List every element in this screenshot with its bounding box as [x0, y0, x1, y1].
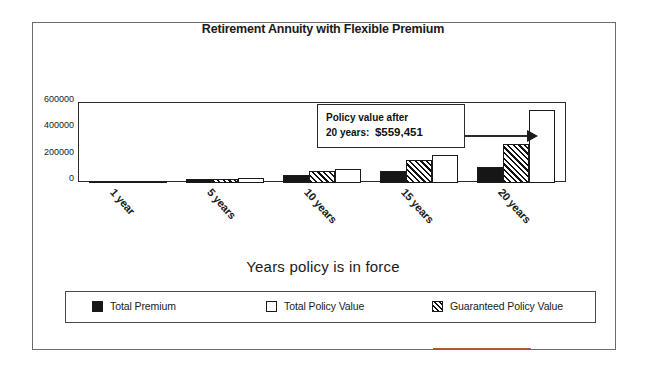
bar-guaranteed-policy-value-10-years	[309, 171, 335, 182]
bar-group-1-year	[79, 105, 176, 183]
bar-total-premium-15-years	[380, 171, 406, 183]
bar-total-premium-5-years	[186, 179, 212, 183]
x-axis-tick-15-years: 15 years	[399, 186, 436, 226]
callout-arrow-head-icon	[527, 130, 538, 142]
bar-total-policy-value-1-year	[141, 181, 167, 183]
bar-total-premium-20-years	[477, 167, 503, 183]
x-axis-tick-20-years: 20 years	[496, 186, 533, 226]
x-axis-tick-10-years: 10 years	[302, 186, 339, 226]
y-axis-tick-0: 0	[69, 173, 74, 183]
legend-item-total-premium: Total Premium	[92, 300, 176, 312]
bar-group-20-years	[467, 105, 564, 183]
legend-label-guaranteed-policy-value: Guaranteed Policy Value	[450, 300, 563, 312]
legend-item-total-policy-value: Total Policy Value	[266, 300, 364, 312]
x-axis-tick-1-year: 1 year	[108, 186, 137, 217]
legend-swatch-guaranteed-policy-value-icon	[432, 301, 443, 312]
callout-label: 20 years:	[326, 127, 369, 138]
legend-label-total-policy-value: Total Policy Value	[284, 300, 364, 312]
y-axis-labels: 600000 400000 200000 0	[16, 94, 74, 190]
bar-guaranteed-policy-value-1-year	[115, 181, 141, 183]
legend-item-guaranteed-policy-value: Guaranteed Policy Value	[432, 300, 563, 312]
bar-total-policy-value-15-years	[432, 155, 458, 183]
legend-swatch-total-premium-icon	[92, 301, 103, 312]
x-axis-tick-labels: 1 year 5 years 10 years 15 years 20 year…	[78, 186, 566, 246]
bar-guaranteed-policy-value-5-years	[212, 179, 238, 183]
bar-guaranteed-policy-value-15-years	[406, 160, 432, 182]
policy-value-callout: Policy value after 20 years: $559,451	[317, 104, 465, 148]
bar-total-policy-value-10-years	[335, 169, 361, 182]
y-axis-tick-400000: 400000	[44, 120, 74, 130]
page-edge-artifact	[433, 348, 531, 349]
chart-legend: Total Premium Total Policy Value Guarant…	[65, 291, 596, 323]
callout-arrow-line	[462, 135, 530, 137]
y-axis-tick-200000: 200000	[44, 147, 74, 157]
x-axis-title: Years policy is in force	[0, 258, 646, 275]
callout-amount: $559,451	[375, 126, 423, 138]
bar-total-policy-value-20-years	[529, 110, 555, 183]
bar-guaranteed-policy-value-20-years	[503, 144, 529, 183]
bar-total-policy-value-5-years	[238, 178, 264, 182]
callout-line-2: 20 years: $559,451	[326, 125, 458, 140]
x-axis-tick-5-years: 5 years	[205, 186, 238, 221]
legend-label-total-premium: Total Premium	[110, 300, 176, 312]
legend-swatch-total-policy-value-icon	[266, 301, 277, 312]
bar-total-premium-10-years	[283, 175, 309, 183]
y-axis-tick-600000: 600000	[44, 94, 74, 104]
bar-group-5-years	[176, 105, 273, 183]
bar-total-premium-1-year	[89, 181, 115, 183]
chart-title: Retirement Annuity with Flexible Premium	[0, 22, 646, 36]
callout-line-1: Policy value after	[326, 110, 458, 125]
